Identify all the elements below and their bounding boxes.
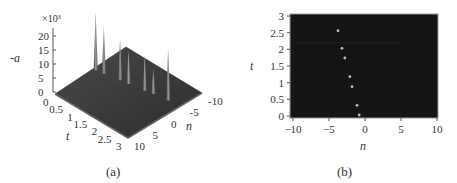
z-axis: 05101520 ×10³ -a	[10, 13, 61, 98]
peak-point	[348, 75, 351, 78]
y-tick-label: 1.5	[270, 60, 284, 72]
y-tick-label: 2.5	[270, 27, 284, 39]
peak-point	[343, 57, 346, 60]
y-tick-label: 1	[279, 77, 285, 89]
t-axis-label: t	[66, 129, 70, 143]
y-tick-label: 0	[279, 110, 285, 122]
n-tick-label: -10	[208, 95, 223, 107]
t-tick-label: 2	[92, 125, 98, 137]
caption-a: (a)	[106, 164, 120, 180]
z-tick-label: 15	[38, 44, 50, 56]
z-tick-label: 10	[38, 58, 50, 70]
x-tick-label: 10	[432, 123, 444, 135]
t-tick-label: 0.5	[49, 103, 63, 115]
peak-point	[356, 104, 359, 107]
x-tick-label: 5	[398, 123, 404, 135]
n-tick-label: 5	[153, 129, 159, 141]
y-tick-label: 2	[279, 43, 285, 55]
x-axis-label: n	[360, 139, 366, 153]
peak-point	[358, 114, 361, 117]
peak-spike	[94, 11, 98, 70]
peak-spike	[102, 26, 106, 74]
density-plot-canvas: −10−50510 00.511.522.53 n t	[230, 0, 457, 183]
z-scale-label: ×10³	[42, 13, 61, 24]
y-tick-label: 0.5	[270, 93, 284, 105]
t-tick-label: 2.5	[98, 133, 112, 145]
peak-point	[337, 29, 340, 32]
n-tick-label: 10	[134, 140, 146, 152]
y-axis-label: t	[250, 59, 254, 73]
x-tick-label: −10	[284, 123, 302, 135]
peak-point	[351, 85, 354, 88]
x-tick-label: −5	[323, 123, 335, 135]
t-tick-label: 3	[116, 140, 122, 152]
t-tick-label: 0	[43, 96, 49, 108]
panel-a-surface-plot: 05101520 ×10³ -a 00.511.522.53 -10-50510…	[0, 0, 230, 183]
z-tick-label: 5	[38, 72, 44, 84]
z-axis-label: -a	[10, 51, 20, 65]
y-tick-label: 3	[279, 10, 285, 22]
x-axis: −10−50510	[284, 118, 443, 135]
n-tick-label: 0	[171, 118, 177, 130]
z-tick-label: 20	[38, 30, 50, 42]
caption-b: (b)	[337, 164, 352, 180]
x-tick-label: 0	[362, 123, 368, 135]
surface-plot-canvas: 05101520 ×10³ -a 00.511.522.53 -10-50510…	[0, 0, 230, 183]
plot-area	[290, 14, 438, 118]
n-axis-label: n	[186, 119, 192, 133]
n-tick-label: -5	[190, 106, 200, 118]
panel-b-density-plot: −10−50510 00.511.522.53 n t (b)	[230, 0, 457, 183]
t-tick-label: 1	[67, 111, 73, 123]
y-axis: 00.511.522.53	[270, 10, 290, 122]
t-tick-label: 1.5	[74, 118, 88, 130]
peak-point	[341, 47, 344, 50]
